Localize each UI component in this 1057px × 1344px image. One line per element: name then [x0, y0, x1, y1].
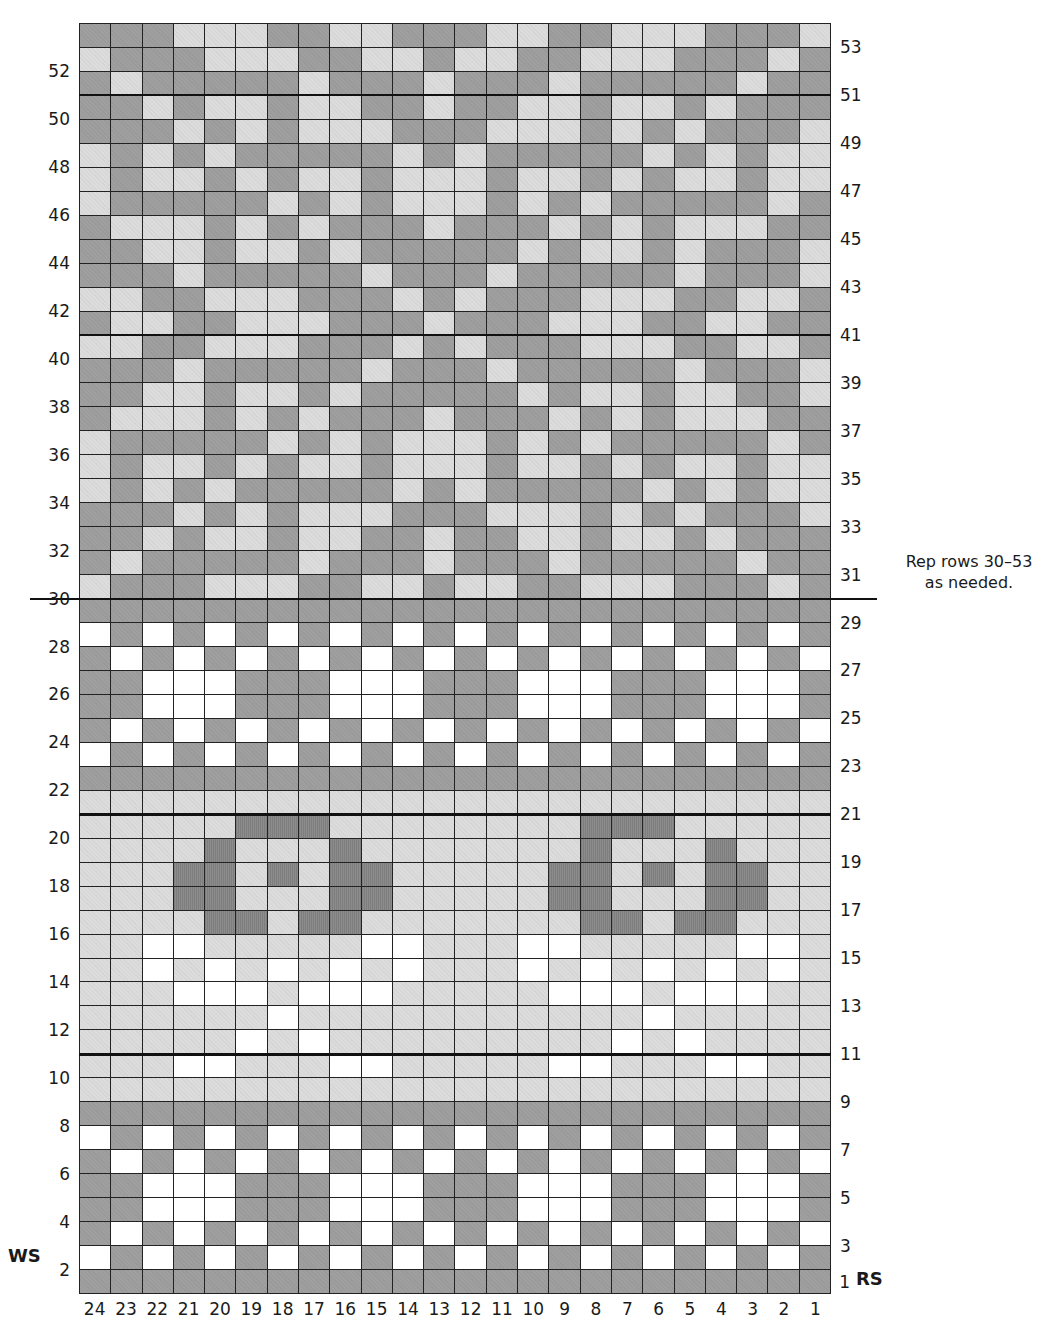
chart-cell: [362, 1270, 392, 1293]
chart-cell: [424, 815, 454, 838]
chart-cell: [362, 120, 392, 143]
chart-cell: [768, 1198, 798, 1221]
chart-cell: [549, 575, 579, 598]
chart-cell: [268, 216, 298, 239]
chart-cell: [111, 1222, 141, 1245]
chart-cell: [518, 72, 548, 95]
chart-cell: [111, 216, 141, 239]
chart-cell: [362, 1150, 392, 1173]
chart-cell: [455, 168, 485, 191]
chart-cell: [518, 431, 548, 454]
chart-cell: [737, 336, 767, 359]
chart-cell: [643, 24, 673, 47]
chart-cell: [487, 407, 517, 430]
chart-cell: [393, 288, 423, 311]
chart-cell: [362, 959, 392, 982]
chart-cell: [205, 767, 235, 790]
chart-cell: [675, 1102, 705, 1125]
chart-cell: [706, 264, 736, 287]
chart-cell: [737, 911, 767, 934]
chart-cell: [330, 431, 360, 454]
chart-cell: [706, 1246, 736, 1269]
chart-cell: [80, 839, 110, 862]
chart-cell: [518, 815, 548, 838]
chart-cell: [205, 312, 235, 335]
chart-cell: [424, 1102, 454, 1125]
chart-cell: [518, 863, 548, 886]
chart-cell: [205, 1054, 235, 1077]
chart-cell: [111, 839, 141, 862]
chart-cell: [518, 48, 548, 71]
chart-cell: [737, 1126, 767, 1149]
chart-cell: [362, 671, 392, 694]
chart-cell: [330, 767, 360, 790]
chart-cell: [393, 1222, 423, 1245]
chart-cell: [80, 336, 110, 359]
chart-cell: [362, 359, 392, 382]
chart-cell: [80, 431, 110, 454]
chart-cell: [612, 1102, 642, 1125]
chart-cell: [768, 1126, 798, 1149]
chart-cell: [737, 815, 767, 838]
chart-cell: [800, 24, 830, 47]
chart-cell: [768, 887, 798, 910]
chart-cell: [330, 144, 360, 167]
chart-cell: [706, 599, 736, 622]
chart-cell: [549, 503, 579, 526]
chart-cell: [424, 599, 454, 622]
chart-cell: [737, 216, 767, 239]
chart-cell: [518, 671, 548, 694]
chart-cell: [393, 120, 423, 143]
chart-cell: [768, 695, 798, 718]
chart-cell: [800, 743, 830, 766]
chart-cell: [455, 767, 485, 790]
chart-cell: [675, 767, 705, 790]
row-label-right: 11: [840, 1044, 880, 1064]
chart-cell: [612, 120, 642, 143]
chart-cell: [299, 767, 329, 790]
chart-cell: [612, 671, 642, 694]
chart-cell: [424, 1006, 454, 1029]
chart-cell: [236, 1198, 266, 1221]
chart-cell: [393, 887, 423, 910]
chart-cell: [143, 407, 173, 430]
chart-cell: [393, 1030, 423, 1053]
chart-cell: [393, 407, 423, 430]
chart-cell: [268, 767, 298, 790]
chart-cell: [706, 455, 736, 478]
chart-cell: [80, 1030, 110, 1053]
chart-cell: [643, 671, 673, 694]
chart-cell: [455, 863, 485, 886]
chart-cell: [393, 982, 423, 1005]
chart-cell: [424, 1198, 454, 1221]
chart-cell: [299, 96, 329, 119]
chart-cell: [612, 359, 642, 382]
chart-cell: [487, 1198, 517, 1221]
chart-cell: [362, 1006, 392, 1029]
chart-cell: [330, 1198, 360, 1221]
chart-cell: [299, 264, 329, 287]
column-label: 15: [361, 1299, 392, 1323]
chart-cell: [268, 575, 298, 598]
chart-cell: [643, 1126, 673, 1149]
chart-cell: [174, 72, 204, 95]
chart-cell: [330, 383, 360, 406]
chart-cell: [330, 24, 360, 47]
chart-cell: [737, 312, 767, 335]
chart-cell: [424, 479, 454, 502]
chart-cell: [549, 671, 579, 694]
row-label-right: 41: [840, 325, 880, 345]
chart-cell: [80, 48, 110, 71]
chart-cell: [581, 719, 611, 742]
chart-cell: [111, 887, 141, 910]
chart-cell: [143, 887, 173, 910]
chart-cell: [768, 383, 798, 406]
chart-cell: [236, 599, 266, 622]
row-label-left: 20: [0, 828, 70, 848]
chart-cell: [737, 240, 767, 263]
chart-cell: [800, 695, 830, 718]
chart-cell: [299, 1030, 329, 1053]
chart-cell: [174, 671, 204, 694]
chart-cell: [330, 959, 360, 982]
chart-cell: [737, 1054, 767, 1077]
